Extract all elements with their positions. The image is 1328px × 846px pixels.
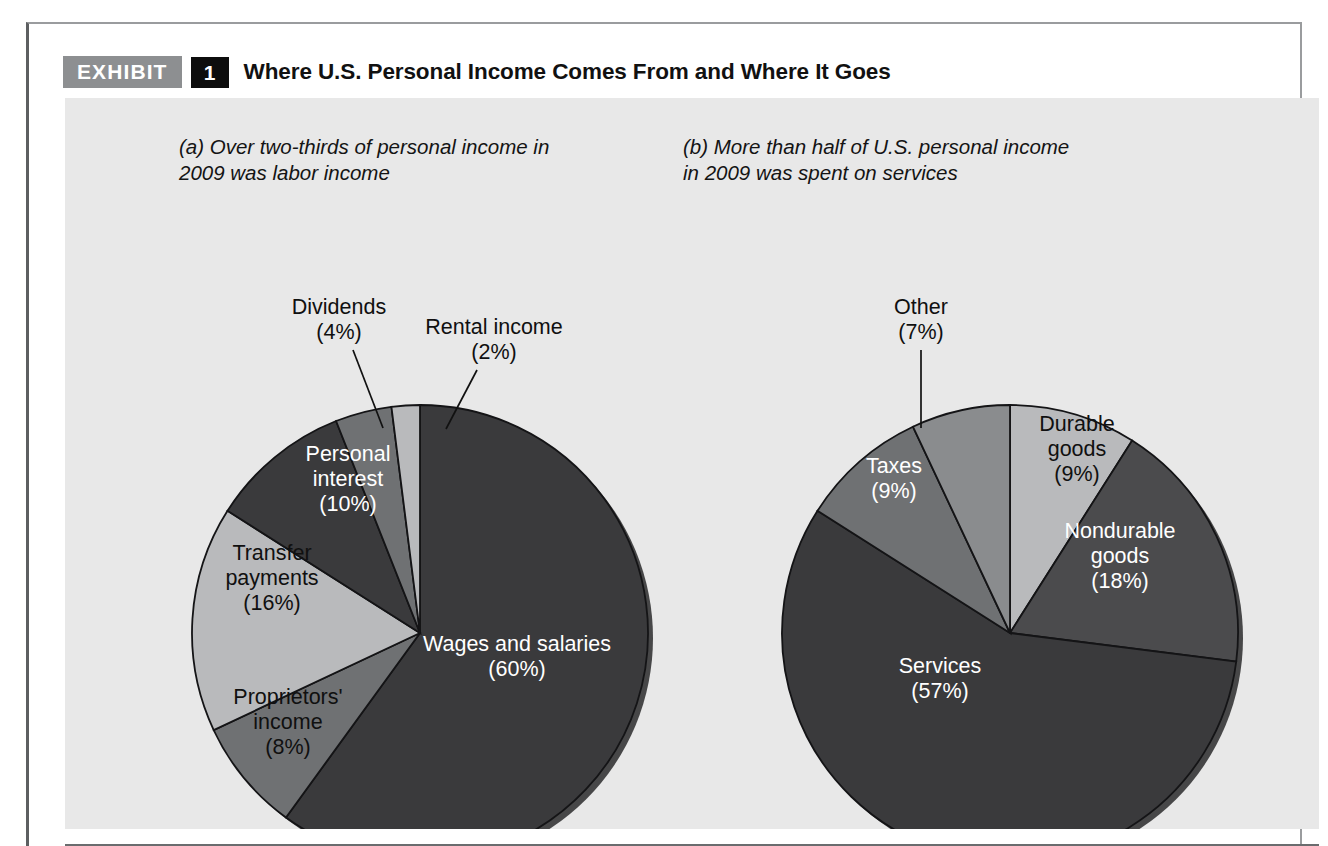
page-title: Where U.S. Personal Income Comes From an… [244,59,891,85]
chart-panel: (a) Over two-thirds of personal income i… [65,98,1319,829]
exhibit-badge: EXHIBIT [63,56,182,88]
pie-chart-b: Durablegoods(9%)Nondurablegoods(18%)Serv… [782,294,1243,829]
slice-label: Rental income(2%) [425,314,562,363]
pie-chart-a: Wages and salaries(60%)Proprietors'incom… [192,294,653,829]
pie-charts-container: Wages and salaries(60%)Proprietors'incom… [65,98,1319,829]
exhibit-frame: EXHIBIT 1 Where U.S. Personal Income Com… [26,22,1302,846]
slice-label: Taxes(9%) [866,453,922,502]
slice-label: Other(7%) [894,294,948,343]
exhibit-header: EXHIBIT 1 Where U.S. Personal Income Com… [63,52,891,92]
exhibit-number-badge: 1 [191,57,229,88]
slice-label: Dividends(4%) [292,294,386,343]
